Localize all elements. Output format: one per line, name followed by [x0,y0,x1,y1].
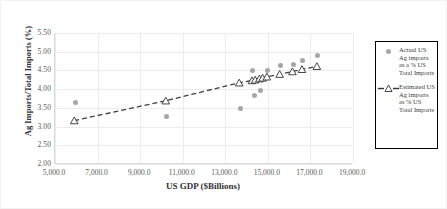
gridline-vertical [353,33,354,163]
x-axis-tick-labels: 5,000.07,000.09,000.011,000.013,000.015,… [54,168,352,182]
y-tick-label: 3.00 [5,122,51,131]
estimated-data-point [276,71,284,78]
chart-figure: Ag Imports/Total Imports (%) 2.002.503.0… [0,0,447,209]
legend-label-estimated: Estimated US Ag imports as % US Total Im… [399,83,435,113]
x-tick-label: 19,000.0 [322,168,382,177]
chart-legend: Actual US Ag imports as a % US Total Imp… [375,41,438,149]
y-tick-label: 4.00 [5,84,51,93]
y-tick-label: 2.00 [5,159,51,168]
estimated-data-point [313,63,321,70]
legend-entry-estimated[interactable]: Estimated US Ag imports as % US Total Im… [378,83,435,113]
legend-label-actual: Actual US Ag imports as a % US Total Imp… [399,46,435,76]
y-axis-tick-labels: 2.002.503.003.504.004.505.005.50 [1,33,51,164]
gridline-horizontal [55,164,352,165]
plot-area-wrapper [54,33,352,164]
y-tick-label: 5.50 [5,28,51,37]
legend-entry-actual[interactable]: Actual US Ag imports as a % US Total Imp… [378,46,435,76]
circle-marker-icon [378,47,399,56]
y-tick-label: 4.50 [5,65,51,74]
y-tick-label: 3.50 [5,103,51,112]
y-tick-label: 2.50 [5,140,51,149]
trend-line [54,33,352,164]
y-tick-label: 5.00 [5,47,51,56]
dashed-line-triangle-marker-icon [378,84,399,93]
x-axis-title: US GDP ($Billions) [54,181,352,191]
